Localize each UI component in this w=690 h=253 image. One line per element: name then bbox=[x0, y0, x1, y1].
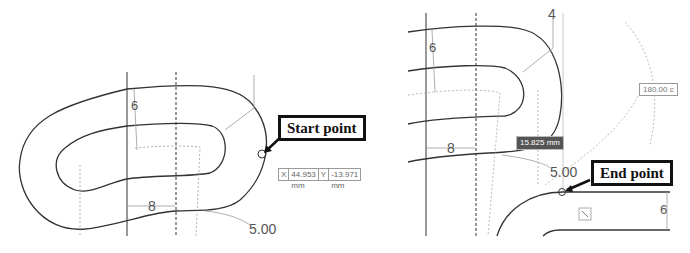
end-point-callout: End point bbox=[591, 160, 673, 186]
length-readout: 15.825 mm bbox=[516, 136, 564, 150]
start-point-callout: Start point bbox=[278, 115, 366, 141]
y-value: -13.971 mm bbox=[329, 169, 360, 180]
dimension-width[interactable]: 8 bbox=[447, 140, 455, 156]
dimension-radius[interactable]: 5.00 bbox=[550, 164, 577, 180]
end-point-view: 6 4 8 5.00 6 15.825 mm 180.00 c End poin… bbox=[395, 0, 690, 253]
coordinate-readout: X 44.953 mm Y -13.971 mm bbox=[278, 168, 361, 181]
dimension-width[interactable]: 8 bbox=[148, 198, 156, 214]
x-value: 44.953 mm bbox=[289, 169, 318, 180]
angle-readout: 180.00 c bbox=[639, 83, 678, 96]
dimension-radius[interactable]: 5.00 bbox=[249, 221, 276, 237]
dimension-height[interactable]: 6 bbox=[429, 40, 436, 55]
dimension-offset[interactable]: 4 bbox=[548, 6, 556, 22]
start-point-view: 6 8 5.00 Start point X 44.953 mm Y -13.9… bbox=[0, 0, 345, 253]
dimension-height-right[interactable]: 6 bbox=[660, 202, 667, 217]
dimension-height[interactable]: 6 bbox=[131, 98, 138, 113]
x-label: X bbox=[279, 169, 289, 180]
sketch-canvas-right bbox=[395, 0, 690, 253]
y-label: Y bbox=[319, 169, 329, 180]
